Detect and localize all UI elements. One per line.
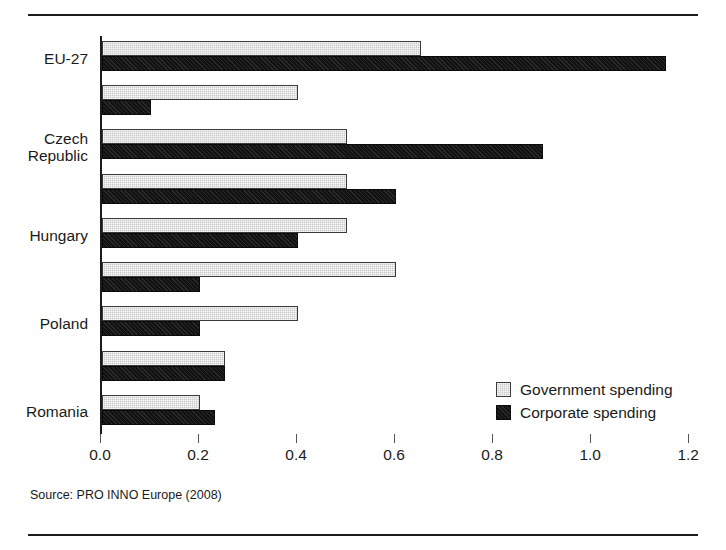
- x-axis-tick-label: 0.6: [383, 446, 405, 464]
- bar-group: [100, 301, 698, 345]
- category-label: EU-27: [44, 50, 88, 67]
- x-axis-tick: [296, 434, 297, 443]
- x-axis-tick: [198, 434, 199, 443]
- bar-group: [100, 124, 698, 168]
- category-label: Poland: [40, 315, 88, 332]
- bar-group: [100, 36, 698, 80]
- legend-swatch-gray-hatched-icon: [496, 382, 511, 397]
- legend-label-government: Government spending: [520, 381, 673, 399]
- figure-bottom-rule: [28, 534, 698, 536]
- category-axis-labels: EU-27Czech RepublicHungaryPolandRomania: [0, 36, 94, 434]
- legend-item-government: Government spending: [496, 378, 706, 401]
- bar-government-spending: [102, 351, 225, 366]
- legend-label-corporate: Corporate spending: [520, 404, 656, 422]
- x-axis-tick: [394, 434, 395, 443]
- bar-group: [100, 80, 698, 124]
- x-axis-tick: [688, 434, 689, 443]
- bar-corporate-spending: [102, 366, 225, 381]
- bar-corporate-spending: [102, 189, 396, 204]
- bar-corporate-spending: [102, 56, 666, 71]
- bar-corporate-spending: [102, 321, 200, 336]
- bar-government-spending: [102, 262, 396, 277]
- bar-government-spending: [102, 129, 347, 144]
- bar-corporate-spending: [102, 100, 151, 115]
- x-axis-tick-label: 1.2: [677, 446, 699, 464]
- chart-legend: Government spending Corporate spending: [496, 378, 706, 424]
- category-label: Hungary: [29, 227, 88, 244]
- x-axis-tick: [590, 434, 591, 443]
- bar-government-spending: [102, 174, 347, 189]
- bar-group: [100, 169, 698, 213]
- figure-container: EU-27Czech RepublicHungaryPolandRomania …: [0, 0, 726, 550]
- legend-item-corporate: Corporate spending: [496, 401, 706, 424]
- bar-government-spending: [102, 306, 298, 321]
- plot-area: [100, 36, 698, 434]
- figure-top-rule: [28, 14, 698, 16]
- bar-groups: [100, 36, 698, 434]
- bar-corporate-spending: [102, 410, 215, 425]
- bar-corporate-spending: [102, 277, 200, 292]
- bar-corporate-spending: [102, 233, 298, 248]
- legend-swatch-black-icon: [496, 405, 511, 420]
- category-label: Romania: [26, 403, 88, 420]
- bar-government-spending: [102, 395, 200, 410]
- bar-group: [100, 213, 698, 257]
- x-axis-tick-label: 0.4: [285, 446, 307, 464]
- x-axis-tick-label: 0.8: [481, 446, 503, 464]
- x-axis: 0.00.20.40.60.81.01.2: [100, 434, 698, 474]
- x-axis-tick: [492, 434, 493, 443]
- bar-group: [100, 257, 698, 301]
- source-note: Source: PRO INNO Europe (2008): [30, 488, 222, 502]
- bar-government-spending: [102, 218, 347, 233]
- bar-government-spending: [102, 85, 298, 100]
- bar-corporate-spending: [102, 144, 543, 159]
- category-label: Czech Republic: [28, 130, 88, 164]
- bar-government-spending: [102, 41, 421, 56]
- x-axis-tick-label: 1.0: [579, 446, 601, 464]
- x-axis-tick: [100, 434, 101, 443]
- x-axis-tick-label: 0.2: [187, 446, 209, 464]
- x-axis-tick-label: 0.0: [89, 446, 111, 464]
